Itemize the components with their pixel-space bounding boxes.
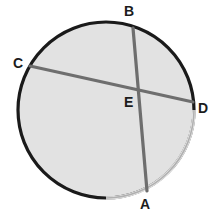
point-label-a: A (140, 197, 150, 211)
figure-canvas (0, 0, 221, 221)
point-label-e: E (124, 95, 133, 109)
point-label-c: C (13, 56, 23, 70)
point-label-b: B (124, 4, 134, 18)
geometry-figure: B C D E A (0, 0, 221, 221)
point-label-d: D (198, 101, 208, 115)
